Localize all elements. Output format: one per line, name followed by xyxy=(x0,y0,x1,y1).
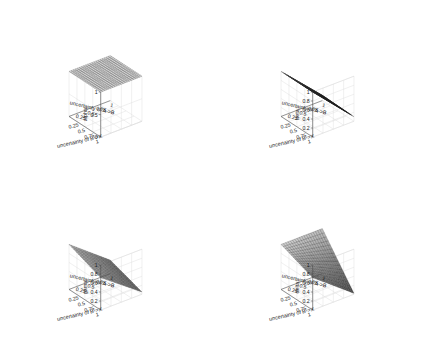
z-tick-label: 0.2 xyxy=(302,298,309,304)
z-tick-label: 0.4 xyxy=(302,289,309,295)
z-axis-title: alpha xyxy=(82,108,88,121)
panel-delta: 0.250.50.7510.250.50.7510.20.40.60.81unc… xyxy=(212,173,423,345)
surface-mesh xyxy=(69,56,142,92)
z-tick-label: 0.5 xyxy=(90,112,97,118)
z-tick-label: 1 xyxy=(95,89,98,95)
axis-titles: uncertainty of A->Buncertainty of B->Xal… xyxy=(57,99,116,149)
panel-gama: 0.250.50.7510.250.50.7510.20.40.60.81unc… xyxy=(0,173,211,345)
axis-titles: uncertainty of A->Buncertainty of B->Xde… xyxy=(268,272,327,322)
panel-alpha: 0.250.50.7510.250.50.75100.51uncertainty… xyxy=(0,0,211,172)
z-tick-label: 0.8 xyxy=(302,98,309,104)
z-tick-label: 1 xyxy=(306,89,309,95)
z-tick-label: 0.4 xyxy=(90,289,97,295)
z-axis-title: delta xyxy=(293,281,299,293)
z-axis-title: gama xyxy=(82,280,88,294)
z-tick-label: 1 xyxy=(306,262,309,268)
z-tick-label: 0.2 xyxy=(90,298,97,304)
z-tick-label: 1 xyxy=(95,262,98,268)
z-axis-title: beta xyxy=(293,109,299,120)
surface-plot-figure: 0.250.50.7510.250.50.75100.51uncertainty… xyxy=(0,0,423,345)
axis-titles: uncertainty of A->Buncertainty of B->Xbe… xyxy=(268,99,327,149)
z-tick-label: 0.4 xyxy=(302,116,309,122)
z-tick-label: 0.2 xyxy=(302,125,309,131)
panel-beta: 0.250.50.7510.250.50.7510.20.40.60.81unc… xyxy=(212,0,423,172)
z-tick-label: 0.8 xyxy=(90,271,97,277)
z-tick-label: 0.8 xyxy=(302,271,309,277)
axis-titles: uncertainty of A->Buncertainty of B->Xga… xyxy=(57,272,116,322)
